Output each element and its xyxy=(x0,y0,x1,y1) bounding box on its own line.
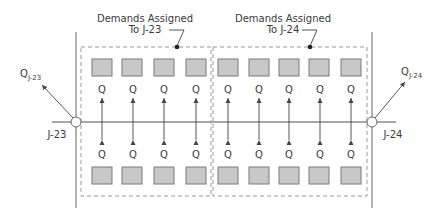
demand-q-label: Q xyxy=(192,84,200,95)
flow-q: Q xyxy=(401,66,409,77)
bottom-demand-row xyxy=(92,167,361,184)
demand-box xyxy=(279,59,299,76)
demand-q-label: Q xyxy=(129,149,137,160)
outflow-arrow-j24 xyxy=(375,82,405,118)
demand-box xyxy=(218,167,238,184)
group-label-j24-line1: Demands Assigned xyxy=(235,13,331,24)
group-label-j23-line2: To J-23 xyxy=(128,24,162,35)
demand-box xyxy=(341,59,361,76)
leader-line-j24 xyxy=(302,30,317,46)
flow-subscript: J-23 xyxy=(27,74,41,82)
demand-q-label: Q xyxy=(192,149,200,160)
demand-q-label: Q xyxy=(347,84,355,95)
outflow-arrow-j23 xyxy=(42,85,73,118)
flow-label-j23: QJ-23 xyxy=(20,68,41,82)
demand-box xyxy=(92,59,112,76)
demand-box xyxy=(249,167,269,184)
junction-label-j24: J-24 xyxy=(383,129,403,140)
top-demand-row xyxy=(92,59,361,76)
junction-label-j23: J-23 xyxy=(47,129,67,140)
demand-box xyxy=(249,59,269,76)
demand-q-label: Q xyxy=(347,149,355,160)
top-q-labels: Q Q Q Q Q Q Q Q Q xyxy=(98,84,355,95)
demand-box xyxy=(92,167,112,184)
group-label-j23-line1: Demands Assigned xyxy=(97,13,193,24)
demand-q-label: Q xyxy=(316,149,324,160)
leader-dot-j24 xyxy=(308,45,313,50)
demand-box xyxy=(279,167,299,184)
group-label-j24-line2: To J-24 xyxy=(266,24,300,35)
demand-q-label: Q xyxy=(255,84,263,95)
demand-box xyxy=(186,167,206,184)
demand-box xyxy=(154,59,174,76)
demand-q-label: Q xyxy=(98,84,106,95)
demand-box xyxy=(122,59,142,76)
demand-q-label: Q xyxy=(160,84,168,95)
demand-box xyxy=(218,59,238,76)
bottom-q-labels: Q Q Q Q Q Q Q Q Q xyxy=(98,149,355,160)
demand-q-label: Q xyxy=(129,84,137,95)
demand-arrows xyxy=(102,98,351,140)
demand-q-label: Q xyxy=(98,149,106,160)
demand-q-label: Q xyxy=(160,149,168,160)
demand-allocation-diagram: Demands Assigned To J-23 Demands Assigne… xyxy=(0,0,444,217)
demand-box xyxy=(309,59,329,76)
demand-q-label: Q xyxy=(285,84,293,95)
demand-q-label: Q xyxy=(255,149,263,160)
flow-label-j24: QJ-24 xyxy=(401,66,423,80)
leader-dot-j23 xyxy=(175,45,180,50)
demand-q-label: Q xyxy=(285,149,293,160)
demand-box xyxy=(309,167,329,184)
demand-box xyxy=(186,59,206,76)
flow-q: Q xyxy=(20,68,28,79)
leader-line-j23 xyxy=(169,30,184,46)
flow-subscript: J-24 xyxy=(408,72,423,80)
demand-q-label: Q xyxy=(224,84,232,95)
demand-q-label: Q xyxy=(224,149,232,160)
junction-node-j24 xyxy=(367,117,377,127)
junction-node-j23 xyxy=(71,117,81,127)
demand-box xyxy=(341,167,361,184)
demand-q-label: Q xyxy=(316,84,324,95)
demand-box xyxy=(122,167,142,184)
demand-box xyxy=(154,167,174,184)
